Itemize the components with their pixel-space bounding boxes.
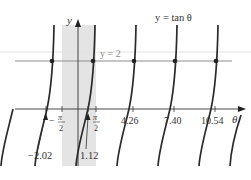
pi-half-denominator: 2: [94, 124, 98, 133]
neg-pi-half-minus: −: [49, 115, 55, 126]
y-axis-label: y: [66, 14, 72, 26]
intersection-dot: [132, 59, 137, 64]
tan-graph: y y = tan θ y = 2 θ − π 2 π 2 4.26 7.40 …: [0, 0, 251, 180]
x-axis-label: θ: [232, 113, 238, 125]
tick-label-4-26: 4.26: [121, 115, 139, 126]
line-label: y = 2: [100, 48, 121, 59]
intersection-dot: [91, 59, 96, 64]
intersection-dot: [173, 59, 178, 64]
tick-label-10-54: 10.54: [201, 115, 224, 126]
annotation-neg-2-02: −2.02: [28, 150, 52, 161]
tan-branch-0: [1, 109, 13, 166]
intersection-dot: [214, 59, 219, 64]
tick-label-7-40: 7.40: [164, 115, 182, 126]
intersection-dot: [50, 59, 55, 64]
pi-half-numerator: π: [93, 113, 98, 122]
tan-branch-1: [35, 25, 54, 166]
x-axis-arrow-icon: [238, 106, 246, 112]
neg-pi-half-denominator: 2: [59, 124, 63, 133]
tan-branch-5: [199, 25, 218, 166]
tan-curves: [1, 25, 241, 166]
annotation-1-12: 1.12: [80, 150, 98, 161]
y-axis-arrow-icon: [75, 19, 81, 27]
tan-branch-4: [158, 25, 177, 166]
tan-branch-3: [117, 25, 136, 166]
curve-label: y = tan θ: [155, 12, 192, 23]
